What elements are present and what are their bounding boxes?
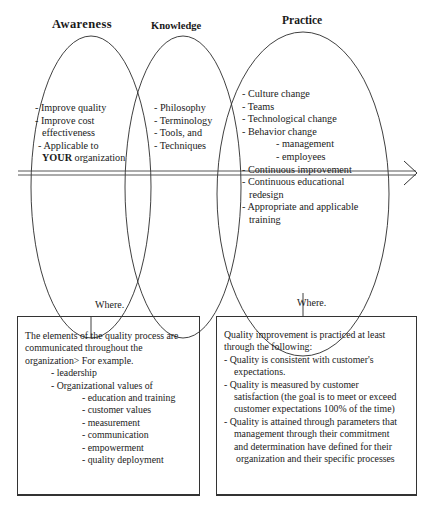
box-item-continuation: expectations.: [224, 366, 409, 378]
box-item: - Quality is consistent with customer's: [224, 354, 409, 366]
box-item-continuation: management through their commitment: [224, 428, 409, 440]
list-item: - Philosophy: [154, 102, 212, 115]
list-item: - Teams: [242, 101, 358, 114]
box-subitem: - empowerment: [25, 442, 192, 454]
where-label-right: Where.: [297, 297, 326, 308]
list-item-continuation: training: [242, 214, 358, 227]
list-subitem: - management: [242, 138, 358, 151]
list-item: - Techniques: [154, 140, 212, 153]
list-item: - Appropriate and applicable: [242, 201, 358, 214]
box-text: The elements of the quality process are: [25, 330, 192, 342]
box-item: - Organizational values of: [25, 380, 192, 392]
box-subitem: - education and training: [25, 392, 192, 404]
emphasis-your: YOUR: [42, 152, 72, 163]
heading-practice: Practice: [282, 14, 322, 26]
box-item-continuation: organization and their specific processe…: [224, 453, 409, 465]
list-subitem: - employees: [242, 151, 358, 164]
list-item-continuation: YOUR organization: [35, 152, 125, 165]
list-item-text: organization: [72, 152, 125, 163]
box-text: communicated throughout the: [25, 342, 192, 354]
list-item: - Applicable to: [35, 140, 125, 153]
box-subitem: - measurement: [25, 417, 192, 429]
awareness-list: - Improve quality - Improve cost effecti…: [35, 102, 125, 165]
list-item-continuation: redesign: [242, 189, 358, 202]
box-item: - leadership: [25, 367, 192, 379]
box-item-continuation: satisfaction (the goal is to meet or exc…: [224, 391, 409, 403]
list-item: - Behavior change: [242, 126, 358, 139]
list-item: - Technological change: [242, 113, 358, 126]
list-item: - Improve cost: [35, 115, 125, 128]
list-item-continuation: effectiveness: [35, 127, 125, 140]
practice-detail-box: Quality improvement is practiced at leas…: [216, 316, 417, 496]
list-item: - Improve quality: [35, 102, 125, 115]
box-subitem: - quality deployment: [25, 454, 192, 466]
heading-awareness: Awareness: [52, 17, 112, 32]
box-item-continuation: customer expectations 100% of the time): [224, 403, 409, 415]
where-label-left: Where.: [95, 299, 124, 310]
awareness-detail-box: The elements of the quality process are …: [17, 316, 200, 496]
list-item: - Terminology: [154, 115, 212, 128]
list-item: - Tools, and: [154, 127, 212, 140]
list-item: - Continuous improvement: [242, 164, 358, 177]
list-item: - Culture change: [242, 88, 358, 101]
box-item-continuation: and determination have defined for their: [224, 441, 409, 453]
box-item: - Quality is measured by customer: [224, 379, 409, 391]
practice-list: - Culture change - Teams - Technological…: [242, 88, 358, 227]
box-item: - Quality is attained through parameters…: [224, 416, 409, 428]
heading-knowledge: Knowledge: [151, 20, 201, 31]
box-text: through the following:: [224, 341, 409, 353]
list-item: - Continuous educational: [242, 176, 358, 189]
box-subitem: - communication: [25, 429, 192, 441]
box-text: organization> For example.: [25, 355, 192, 367]
box-subitem: - customer values: [25, 404, 192, 416]
box-text: Quality improvement is practiced at leas…: [224, 329, 409, 341]
knowledge-list: - Philosophy - Terminology - Tools, and …: [154, 102, 212, 152]
knowledge-ellipse: [125, 36, 241, 338]
awareness-ellipse: [31, 36, 151, 338]
